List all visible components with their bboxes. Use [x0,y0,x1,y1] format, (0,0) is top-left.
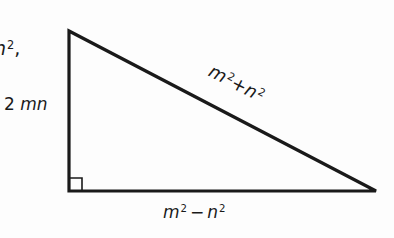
base-operator: − [190,202,204,222]
base-var-n: n [207,202,218,222]
base-exp-n: 2 [219,203,225,214]
right-angle-marker [69,178,82,191]
horizontal-leg-label: m2−n2 [163,204,226,221]
base-var-m: m [163,202,180,222]
vertical-leg-label: 2 mn [4,96,48,113]
triangle-diagram: n2, 2 mn m2+n2 m2−n2 [0,0,394,238]
vertical-leg-variables: mn [20,94,47,114]
triangle-outline [69,31,376,191]
vertical-leg-coefficient: 2 [4,94,20,114]
fragment-var: n [0,37,6,59]
base-exp-m: 2 [181,203,187,214]
cropped-label-fragment: n2, [0,39,20,58]
fragment-comma: , [14,37,20,59]
